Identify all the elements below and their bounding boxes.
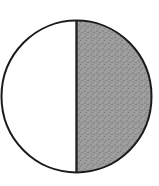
- half-shaded-circle-svg: [0, 0, 159, 186]
- shaded-right-half: [77, 21, 152, 173]
- fraction-circle-figure: [0, 0, 159, 186]
- unshaded-left-half: [2, 21, 77, 173]
